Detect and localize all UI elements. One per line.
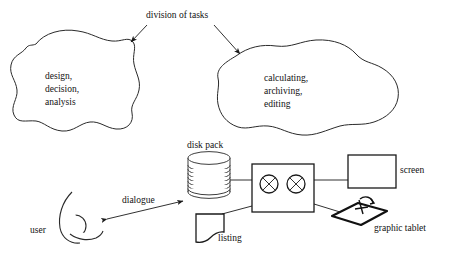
screen-box [348, 155, 396, 188]
machine-task-line-1: calculating, [264, 73, 308, 83]
user-figure-icon [60, 192, 104, 243]
machine-task-blob [217, 40, 398, 135]
listing-label: listing [218, 233, 242, 243]
machine-task-line-3: editing [264, 99, 291, 109]
dialogue-label: dialogue [122, 195, 155, 205]
cpu-reel-left-icon [260, 175, 278, 193]
human-task-line-1: design, [45, 71, 72, 81]
screen-label: screen [400, 165, 425, 175]
disk-pack-label: disk pack [187, 140, 223, 150]
human-task-blob [11, 30, 140, 131]
division-of-tasks-label: division of tasks [146, 10, 209, 20]
human-task-line-2: decision, [45, 84, 79, 94]
machine-task-line-2: archiving, [264, 86, 302, 96]
disk-pack-icon [188, 152, 230, 199]
link-cpu-tablet [314, 204, 340, 212]
human-task-line-3: analysis [45, 97, 76, 107]
division-arrow-right [214, 25, 240, 54]
user-label: user [30, 225, 47, 235]
link-cpu-listing [222, 206, 252, 214]
graphic-tablet-label: graphic tablet [374, 223, 426, 233]
cpu-reel-right-icon [287, 175, 305, 193]
graphic-tablet-icon [332, 197, 387, 225]
diagram-canvas: design, decision, analysis calculating, … [0, 0, 453, 256]
diagram-svg: design, decision, analysis calculating, … [0, 0, 453, 256]
division-arrow-left [131, 25, 147, 42]
